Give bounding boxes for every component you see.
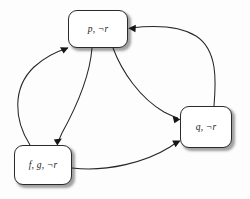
arrowhead-into-p-from-q	[128, 25, 136, 32]
edge-p-to-q	[113, 48, 181, 123]
node-q-not-r-label: q, ¬r	[196, 122, 217, 132]
node-p-not-r[interactable]: p, ¬r	[68, 10, 128, 48]
diagram-canvas: p, ¬r q, ¬r f, g, ¬r	[0, 0, 250, 199]
edge-fg-to-p	[18, 47, 69, 145]
node-p-not-r-label: p, ¬r	[88, 24, 109, 34]
arrowhead-into-q-from-fg	[172, 141, 180, 148]
edge-p-to-fg	[54, 48, 92, 146]
node-f-g-not-r-label: f, g, ¬r	[29, 160, 58, 170]
node-f-g-not-r[interactable]: f, g, ¬r	[14, 145, 72, 185]
node-q-not-r[interactable]: q, ¬r	[180, 106, 232, 148]
edge-fg-to-q	[72, 141, 181, 169]
